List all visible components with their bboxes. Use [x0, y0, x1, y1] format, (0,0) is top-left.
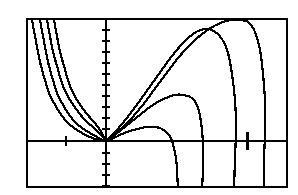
curve-2 — [40, 20, 203, 188]
plot-canvas — [28, 20, 288, 188]
curve-4 — [54, 20, 265, 188]
plot-frame — [26, 18, 288, 188]
screenshot-root — [0, 0, 298, 195]
curve-3 — [47, 20, 236, 188]
curve-group — [32, 20, 265, 188]
